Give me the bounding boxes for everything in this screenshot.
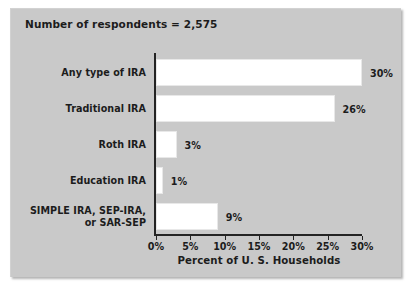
bar-value-label: 26% bbox=[343, 91, 366, 127]
plot-area: Any type of IRA30%Traditional IRA26%Roth… bbox=[11, 9, 401, 277]
category-label: Roth IRA bbox=[11, 127, 146, 163]
bar-row: Education IRA1% bbox=[11, 163, 401, 199]
bar-value-label: 9% bbox=[226, 199, 242, 235]
x-tick bbox=[328, 236, 329, 240]
bar-value-label: 3% bbox=[185, 127, 201, 163]
x-tick bbox=[156, 236, 157, 240]
x-tick bbox=[225, 236, 226, 240]
bar-value-label: 1% bbox=[171, 163, 187, 199]
bar bbox=[156, 203, 218, 230]
bar-row: SIMPLE IRA, SEP-IRA,or SAR-SEP9% bbox=[11, 199, 401, 235]
x-axis-title: Percent of U. S. Households bbox=[154, 255, 364, 266]
bar bbox=[156, 167, 163, 194]
category-label: SIMPLE IRA, SEP-IRA,or SAR-SEP bbox=[11, 199, 146, 235]
bar bbox=[156, 59, 362, 86]
x-tick bbox=[293, 236, 294, 240]
bar-row: Roth IRA3% bbox=[11, 127, 401, 163]
bar-row: Traditional IRA26% bbox=[11, 91, 401, 127]
bar-value-label: 30% bbox=[370, 55, 393, 91]
chart-figure: Number of respondents = 2,575 Any type o… bbox=[0, 0, 414, 290]
x-tick bbox=[190, 236, 191, 240]
category-label: Traditional IRA bbox=[11, 91, 146, 127]
bar-row: Any type of IRA30% bbox=[11, 55, 401, 91]
x-tick bbox=[259, 236, 260, 240]
x-tick-label: 30% bbox=[342, 241, 382, 252]
category-label: Any type of IRA bbox=[11, 55, 146, 91]
x-tick bbox=[362, 236, 363, 240]
bar bbox=[156, 131, 177, 158]
chart-panel: Number of respondents = 2,575 Any type o… bbox=[10, 8, 401, 277]
category-label: Education IRA bbox=[11, 163, 146, 199]
bar bbox=[156, 95, 335, 122]
